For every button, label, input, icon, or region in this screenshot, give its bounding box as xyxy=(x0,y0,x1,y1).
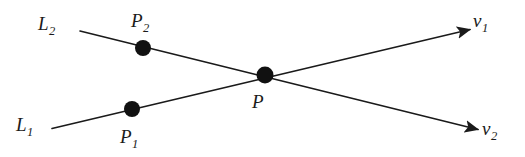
label-P1-base: P xyxy=(120,126,132,147)
label-P2-subscript: 2 xyxy=(143,21,149,35)
label-v1-base: ν xyxy=(473,10,481,31)
label-L2-subscript: 2 xyxy=(49,24,55,38)
label-v2-subscript: 2 xyxy=(491,129,497,143)
point-marker-P1 xyxy=(124,101,140,117)
label-P2-base: P xyxy=(131,10,143,31)
label-v1: ν1 xyxy=(473,11,488,30)
label-P2: P2 xyxy=(131,11,149,30)
label-L1-subscript: 1 xyxy=(27,125,33,139)
label-P: P xyxy=(252,92,264,111)
label-v1-subscript: 1 xyxy=(482,21,488,35)
figure-canvas: L2 P2 L1 P1 P ν1 ν2 xyxy=(0,0,525,157)
diagram-svg xyxy=(0,0,525,157)
label-L1-base: L xyxy=(16,114,27,135)
label-P1: P1 xyxy=(120,127,138,146)
point-marker-P xyxy=(257,67,274,84)
label-v2-base: ν xyxy=(482,118,490,139)
label-v2: ν2 xyxy=(482,119,497,138)
label-L1: L1 xyxy=(16,115,33,134)
point-marker-P2 xyxy=(135,40,151,56)
label-P-base: P xyxy=(252,91,264,112)
label-L2: L2 xyxy=(38,14,55,33)
label-P1-subscript: 1 xyxy=(132,137,138,151)
label-L2-base: L xyxy=(38,13,49,34)
